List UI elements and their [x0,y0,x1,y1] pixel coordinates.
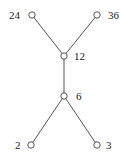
label-3: 3 [106,139,112,151]
label-24: 24 [9,9,21,21]
node-36 [94,12,100,18]
label-12: 12 [74,50,85,62]
edge-6-2 [31,96,64,145]
edge-24-12 [32,15,64,56]
hasse-diagram: 24 36 12 6 2 3 [0,0,123,157]
edges [31,15,97,145]
node-3 [94,142,100,148]
node-2 [28,142,34,148]
label-2: 2 [15,139,21,151]
node-6 [61,93,67,99]
edge-6-3 [64,96,97,145]
node-24 [29,12,35,18]
node-12 [61,53,67,59]
label-6: 6 [76,90,82,102]
label-36: 36 [108,9,120,21]
